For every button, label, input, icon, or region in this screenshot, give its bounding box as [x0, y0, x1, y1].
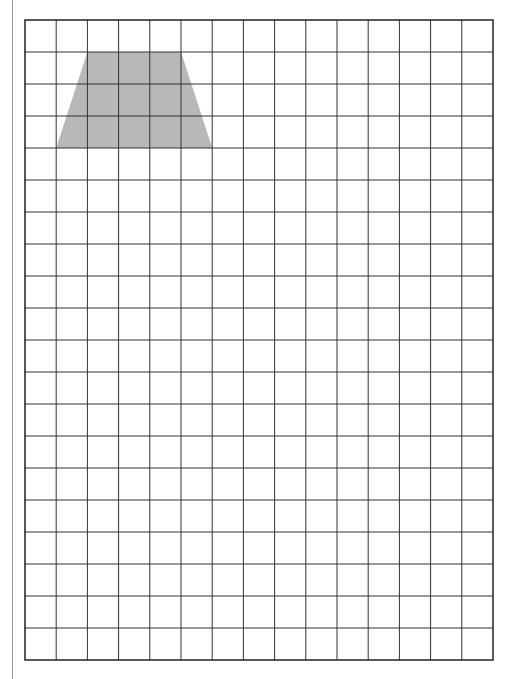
shapes-layer — [56, 52, 212, 148]
grid-layer — [25, 20, 493, 660]
grid-worksheet — [0, 0, 509, 679]
trapezoid-shape — [56, 52, 212, 148]
